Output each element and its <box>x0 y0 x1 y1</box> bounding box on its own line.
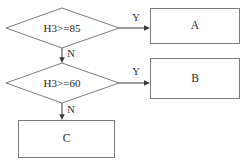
process-node-b-label: B <box>191 72 199 84</box>
decision-node-h3-60-label: H3>=60 <box>44 77 81 89</box>
process-node-c-label: C <box>63 132 71 144</box>
edge-d2-to-c-label: N <box>67 104 75 115</box>
edge-d1-to-a-label: Y <box>132 12 140 23</box>
edge-d1-to-d2-label: N <box>67 48 75 59</box>
edge-d2-to-b-arrowhead <box>144 80 150 86</box>
edge-d2-to-b-label: Y <box>132 66 140 77</box>
edge-d2-to-c-arrowhead <box>59 114 64 120</box>
flowchart-canvas: H3>=85 H3>=60 A B C Y N Y N <box>0 0 246 164</box>
edge-d1-to-d2-arrowhead <box>59 57 64 63</box>
process-node-a-label: A <box>191 19 200 31</box>
decision-node-h3-85-label: H3>=85 <box>44 22 81 34</box>
flowchart-svg: H3>=85 H3>=60 A B C Y N Y N <box>0 0 246 164</box>
edge-d1-to-a-arrowhead <box>144 25 150 31</box>
